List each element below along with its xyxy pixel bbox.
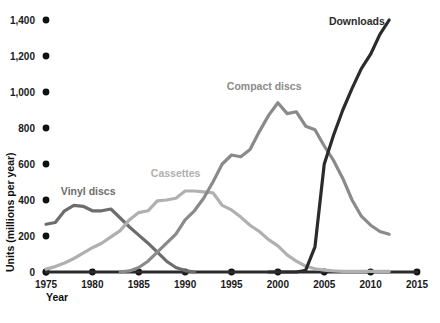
x-tick-label: 1990 — [174, 279, 197, 290]
line-chart: 02004006008001,0001,2001,400 19751980198… — [0, 0, 440, 323]
y-tick-dot — [43, 125, 50, 132]
series-label-cassettes: Cassettes — [151, 167, 201, 179]
y-tick-dot — [43, 161, 50, 168]
y-tick-label: 600 — [18, 159, 35, 170]
x-tick-label: 1980 — [81, 279, 104, 290]
x-tick-label: 2010 — [360, 279, 383, 290]
y-tick-label: 800 — [18, 123, 35, 134]
y-tick-label: 200 — [18, 231, 35, 242]
series-lines — [46, 20, 389, 272]
x-tick-label: 2000 — [267, 279, 290, 290]
y-tick-dot — [43, 17, 50, 24]
y-tick-dot — [43, 233, 50, 240]
x-tick-label: 1985 — [128, 279, 151, 290]
series-line-downloads — [269, 20, 390, 272]
series-label-downloads: Downloads — [329, 15, 385, 27]
series-label-compact-discs: Compact discs — [227, 80, 302, 92]
x-tick-label: 2015 — [406, 279, 429, 290]
series-line-compact-discs — [120, 103, 389, 272]
series-line-cassettes — [46, 191, 389, 271]
x-tick-label: 1975 — [35, 279, 58, 290]
y-axis-title: Units (millions per year) — [4, 152, 16, 272]
y-tick-label: 400 — [18, 195, 35, 206]
x-tick-label: 1995 — [220, 279, 243, 290]
series-label-vinyl-discs: Vinyl discs — [61, 185, 116, 197]
chart-canvas: 02004006008001,0001,2001,400 19751980198… — [0, 0, 440, 323]
y-tick-label: 0 — [29, 267, 35, 278]
y-tick-dot — [43, 89, 50, 96]
y-tick-dot — [43, 197, 50, 204]
x-tick-label: 2005 — [313, 279, 336, 290]
y-tick-label: 1,000 — [10, 87, 35, 98]
y-tick-label: 1,400 — [10, 15, 35, 26]
x-axis-title: Year — [46, 291, 68, 303]
y-tick-dot — [43, 53, 50, 60]
y-tick-label: 1,200 — [10, 51, 35, 62]
